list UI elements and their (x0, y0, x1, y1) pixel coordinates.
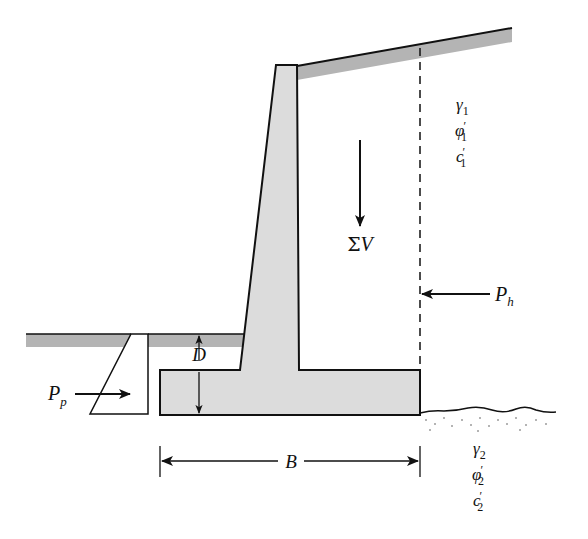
retaining-wall-diagram: ΣV Ph Pp D B γ1 φ′1 c′1 γ2 (0, 0, 588, 539)
backfill-soil-properties: γ1 φ′1 c′1 (455, 95, 469, 170)
phi1-label: φ′1 (455, 119, 467, 144)
embedment-depth-label: D (191, 344, 206, 365)
gamma1-label: γ1 (456, 95, 469, 118)
foundation-ground-surface (420, 407, 556, 432)
backfill-slope-surface (297, 28, 512, 80)
gamma2-label: γ2 (473, 439, 486, 462)
foundation-soil-properties: γ2 φ′2 c′2 (472, 439, 486, 514)
c1-label: c′1 (456, 145, 466, 170)
active-force-label: Ph (494, 283, 514, 309)
vertical-force-label: ΣV (347, 233, 375, 255)
passive-force-label: Pp (47, 382, 67, 409)
c2-label: c′2 (473, 489, 483, 514)
base-width-label: B (285, 451, 297, 472)
phi2-label: φ′2 (472, 463, 484, 488)
